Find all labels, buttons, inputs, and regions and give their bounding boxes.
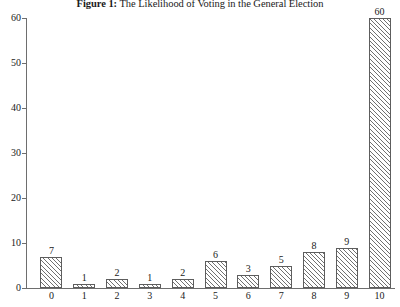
- bar-value-label: 60: [369, 6, 391, 17]
- chart-title: Figure 1: The Likelihood of Voting in th…: [0, 0, 400, 10]
- bar[interactable]: [139, 284, 161, 289]
- x-tick-label: 2: [106, 290, 128, 301]
- plot-area: 0102030405060 712126358960 012345678910: [26, 18, 395, 288]
- bar-value-label: 9: [336, 236, 358, 247]
- y-tick-mark: [22, 153, 26, 154]
- bar-value-label: 7: [40, 245, 62, 256]
- figure-container: Figure 1: The Likelihood of Voting in th…: [0, 0, 400, 307]
- x-tick-label: 0: [40, 290, 62, 301]
- x-axis-line: [26, 288, 395, 289]
- chart-title-label: Figure 1:: [77, 0, 117, 9]
- bar[interactable]: [336, 248, 358, 289]
- x-tick-label: 1: [73, 290, 95, 301]
- bar-value-label: 1: [73, 272, 95, 283]
- y-tick-label: 10: [11, 237, 21, 248]
- y-tick-mark: [22, 288, 26, 289]
- bar[interactable]: [40, 257, 62, 289]
- bar-value-label: 8: [303, 240, 325, 251]
- x-tick-label: 9: [336, 290, 358, 301]
- y-tick-mark: [22, 18, 26, 19]
- bar-value-label: 2: [172, 267, 194, 278]
- chart-title-text: The Likelihood of Voting in the General …: [119, 0, 323, 9]
- x-tick-label: 4: [172, 290, 194, 301]
- bar[interactable]: [369, 18, 391, 288]
- y-tick-label: 40: [11, 102, 21, 113]
- bar[interactable]: [106, 279, 128, 288]
- y-tick-mark: [22, 243, 26, 244]
- y-tick-mark: [22, 108, 26, 109]
- bar[interactable]: [73, 284, 95, 289]
- y-tick-label: 50: [11, 57, 21, 68]
- bar-value-label: 2: [106, 267, 128, 278]
- y-tick-label: 20: [11, 192, 21, 203]
- y-tick-mark: [22, 63, 26, 64]
- y-tick-label: 60: [11, 12, 21, 23]
- x-tick-label: 10: [369, 290, 391, 301]
- x-tick-label: 8: [303, 290, 325, 301]
- bar-value-label: 3: [237, 263, 259, 274]
- bar[interactable]: [172, 279, 194, 288]
- y-tick-label: 30: [11, 147, 21, 158]
- bar[interactable]: [303, 252, 325, 288]
- bar[interactable]: [270, 266, 292, 289]
- x-tick-label: 5: [205, 290, 227, 301]
- bar-value-label: 5: [270, 254, 292, 265]
- x-tick-label: 7: [270, 290, 292, 301]
- bar-value-label: 1: [139, 272, 161, 283]
- x-tick-label: 3: [139, 290, 161, 301]
- bar-value-label: 6: [205, 249, 227, 260]
- y-tick-label: 0: [16, 282, 21, 293]
- y-tick-mark: [22, 198, 26, 199]
- bar[interactable]: [205, 261, 227, 288]
- x-tick-label: 6: [237, 290, 259, 301]
- bar[interactable]: [237, 275, 259, 289]
